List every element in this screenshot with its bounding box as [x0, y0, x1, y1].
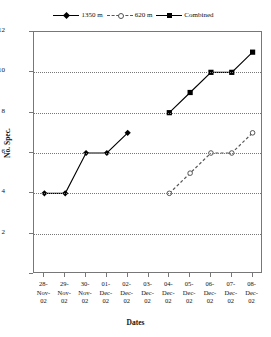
- legend-item-620m: 620 m: [107, 11, 157, 20]
- plot-area: [33, 31, 262, 273]
- gridline: [34, 72, 261, 73]
- chart-figure: 1350 m 620 m Combined No. Spec. Dates 24…: [0, 0, 271, 337]
- gridline: [34, 193, 261, 194]
- y-tick-mark: [29, 112, 33, 113]
- x-tick-mark: [189, 273, 190, 277]
- x-tick-mark: [64, 273, 65, 277]
- data-point-marker: [250, 131, 255, 136]
- y-tick-label: 10: [0, 67, 5, 74]
- y-tick-label: 8: [0, 108, 5, 115]
- legend-item-1350m: 1350 m: [53, 11, 106, 20]
- y-tick-label: 2: [0, 229, 5, 236]
- data-point-marker: [188, 171, 193, 176]
- y-tick-mark: [29, 31, 33, 32]
- data-point-marker: [250, 50, 255, 55]
- filled-diamond-icon: [63, 11, 70, 18]
- legend-item-combined: Combined: [156, 11, 217, 20]
- y-tick-mark: [29, 233, 33, 234]
- legend-label-620m: 620 m: [135, 12, 153, 19]
- x-axis-title: Dates: [0, 318, 271, 327]
- y-tick-label: 4: [0, 188, 5, 195]
- gridline: [34, 234, 261, 235]
- filled-square-icon: [167, 13, 172, 18]
- gridline: [34, 153, 261, 154]
- y-tick-mark: [29, 71, 33, 72]
- x-tick-mark: [127, 273, 128, 277]
- legend-swatch-620m: [107, 11, 133, 20]
- legend-label-combined: Combined: [184, 12, 213, 19]
- y-tick-mark: [29, 152, 33, 153]
- x-tick-mark: [85, 273, 86, 277]
- chart-legend: 1350 m 620 m Combined: [0, 8, 271, 22]
- x-tick-mark: [210, 273, 211, 277]
- y-tick-label: 6: [0, 148, 5, 155]
- x-tick-mark: [231, 273, 232, 277]
- x-tick-mark: [106, 273, 107, 277]
- y-axis-title: No. Spec.: [4, 113, 12, 173]
- legend-label-1350m: 1350 m: [81, 12, 102, 19]
- series-line-combined: [169, 52, 252, 113]
- series-line-1350-m: [44, 133, 127, 193]
- series-line-620-m: [169, 133, 252, 193]
- x-tick-label: 08-Dec-02: [239, 280, 265, 306]
- x-tick-label-line: 02: [239, 297, 265, 306]
- data-point-marker: [188, 90, 193, 95]
- legend-swatch-1350m: [53, 11, 79, 20]
- legend-swatch-combined: [156, 11, 182, 20]
- x-tick-label-line: 08-: [239, 280, 265, 289]
- open-circle-icon: [118, 13, 124, 19]
- y-tick-label: 12: [0, 27, 5, 34]
- x-tick-label-line: Dec-: [239, 289, 265, 298]
- x-tick-mark: [148, 273, 149, 277]
- y-tick-mark: [29, 192, 33, 193]
- x-tick-mark: [168, 273, 169, 277]
- y-tick-mark: [29, 273, 33, 274]
- gridline: [34, 113, 261, 114]
- x-tick-mark: [252, 273, 253, 277]
- x-tick-mark: [43, 273, 44, 277]
